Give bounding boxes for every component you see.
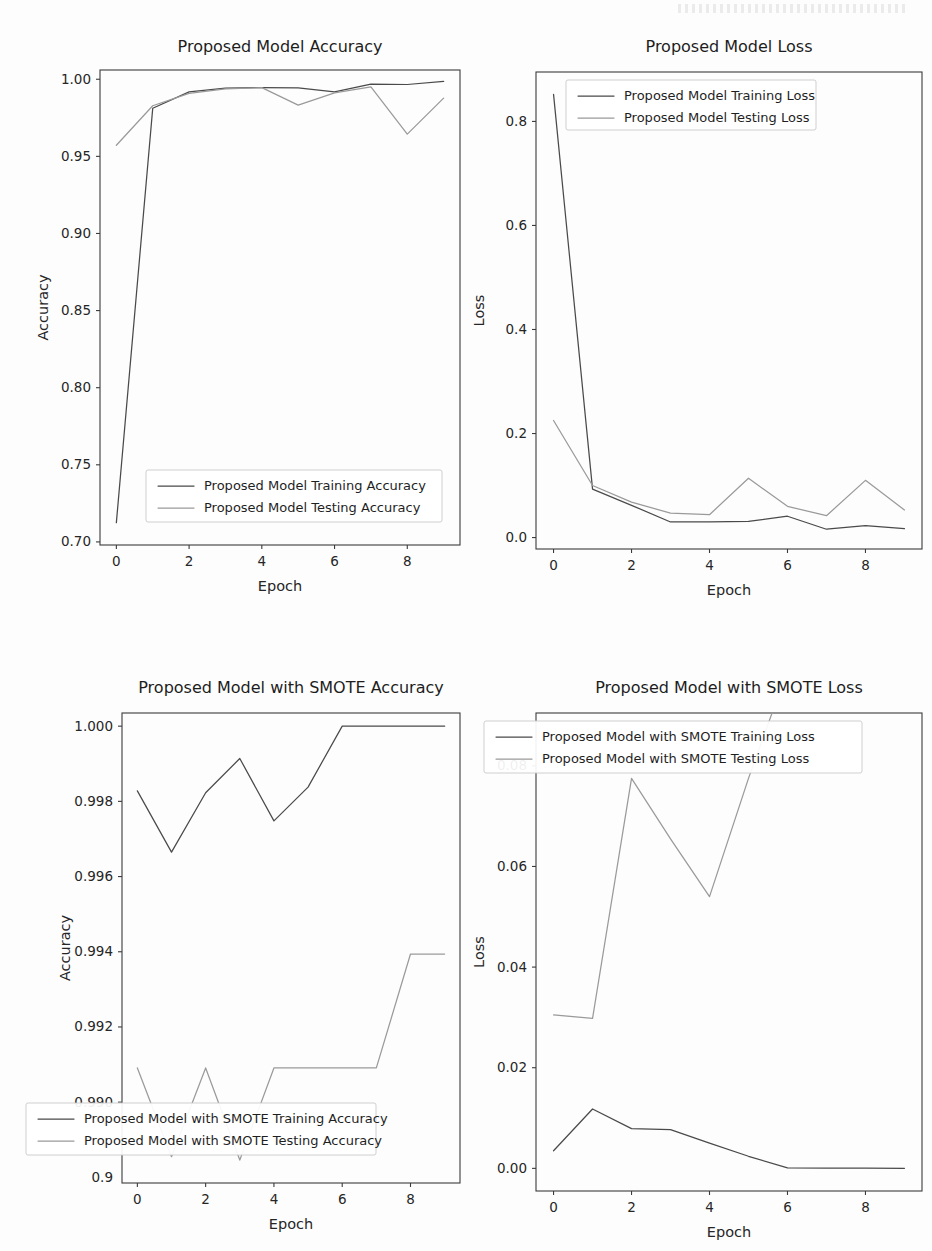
y-tick-label: 0.85: [61, 302, 91, 318]
y-tick-label: 1.00: [61, 71, 91, 87]
series-line-training: [554, 94, 905, 529]
x-tick-label: 8: [403, 553, 412, 569]
y-tick-label: 0.70: [61, 533, 91, 549]
x-tick-label: 8: [406, 1191, 415, 1207]
plot-frame: [536, 713, 922, 1191]
chart-title: Proposed Model with SMOTE Accuracy: [138, 678, 443, 697]
x-tick-label: 6: [783, 1199, 792, 1215]
x-tick-label: 2: [201, 1191, 210, 1207]
plot-area: [137, 726, 444, 1160]
series-line-training: [137, 726, 444, 852]
y-tick-label: 0.996: [74, 868, 113, 884]
x-tick-label: 8: [861, 557, 870, 573]
x-tick-label: 2: [185, 553, 194, 569]
legend-label-testing: Proposed Model Testing Accuracy: [204, 500, 421, 515]
chart-panel-proposed-model-smote-accuracy: Proposed Model with SMOTE Accuracy0.9900…: [8, 655, 468, 1245]
legend-label-testing: Proposed Model with SMOTE Testing Loss: [542, 751, 809, 766]
y-tick-label: 0.994: [74, 943, 113, 959]
legend-label-training: Proposed Model with SMOTE Training Loss: [542, 729, 815, 744]
scan-artifact: [678, 4, 908, 13]
x-tick-label: 2: [627, 1199, 636, 1215]
series-line-training: [116, 81, 443, 522]
chart-legend: Proposed Model with SMOTE Training LossP…: [484, 721, 862, 773]
plot-area: [116, 81, 443, 522]
x-tick-label: 4: [705, 1199, 714, 1215]
chart-svg-proposed-model-accuracy: Proposed Model Accuracy0.700.750.800.850…: [8, 30, 468, 605]
chart-panel-proposed-model-accuracy: Proposed Model Accuracy0.700.750.800.850…: [8, 30, 468, 605]
plot-frame: [536, 72, 922, 549]
x-tick-label: 2: [627, 557, 636, 573]
chart-panel-proposed-model-smote-loss: Proposed Model with SMOTE Loss0.000.020.…: [470, 655, 932, 1245]
y-axis-title: Loss: [471, 936, 487, 968]
y-tick-label: 0.0: [506, 529, 527, 545]
y-tick-label: 0.75: [61, 456, 91, 472]
y-tick-label: 0.95: [61, 148, 91, 164]
chart-legend: Proposed Model Training LossProposed Mod…: [566, 80, 816, 130]
series-line-testing: [116, 87, 443, 145]
y-tick-label: 0.80: [61, 379, 91, 395]
x-axis-title: Epoch: [707, 1224, 751, 1240]
legend-label-training: Proposed Model Training Accuracy: [204, 478, 426, 493]
legend-label-testing: Proposed Model Testing Loss: [624, 110, 810, 125]
plot-area: [554, 94, 905, 529]
series-line-training: [554, 1109, 905, 1168]
chart-legend: Proposed Model with SMOTE Training Accur…: [26, 1103, 388, 1155]
y-tick-label: 0.04: [497, 959, 527, 975]
y-tick-label: 0.90: [61, 225, 91, 241]
y-tick-label: 0.00: [497, 1160, 527, 1176]
x-tick-label: 0: [549, 1199, 558, 1215]
y-axis-title: Accuracy: [35, 274, 51, 341]
x-tick-label: 8: [861, 1199, 870, 1215]
y-tick-label: 0.06: [497, 858, 527, 874]
x-tick-label: 6: [338, 1191, 347, 1207]
series-line-testing: [554, 421, 905, 516]
chart-panel-proposed-model-loss: Proposed Model Loss0.00.20.40.60.802468E…: [470, 30, 932, 605]
y-axis-title: Loss: [471, 295, 487, 327]
x-tick-label: 0: [133, 1191, 142, 1207]
legend-label-testing: Proposed Model with SMOTE Testing Accura…: [84, 1133, 382, 1148]
legend-label-training: Proposed Model with SMOTE Training Accur…: [84, 1111, 388, 1126]
x-tick-label: 0: [549, 557, 558, 573]
y-tick-label: 0.6: [506, 217, 527, 233]
chart-title: Proposed Model Loss: [646, 37, 813, 56]
x-axis-title: Epoch: [258, 578, 302, 594]
chart-svg-proposed-model-loss: Proposed Model Loss0.00.20.40.60.802468E…: [470, 30, 932, 605]
x-tick-label: 0: [112, 553, 121, 569]
x-tick-label: 4: [270, 1191, 279, 1207]
x-tick-label: 4: [258, 553, 267, 569]
y-tick-label: 0.8: [506, 113, 527, 129]
chart-title: Proposed Model with SMOTE Loss: [595, 678, 863, 697]
legend-label-training: Proposed Model Training Loss: [624, 88, 815, 103]
y-tick-label: 0.2: [506, 425, 527, 441]
chart-svg-proposed-model-smote-accuracy: Proposed Model with SMOTE Accuracy0.9900…: [8, 655, 468, 1245]
x-tick-label: 6: [783, 557, 792, 573]
y-tick-label: 0.02: [497, 1059, 527, 1075]
y-tick-label: 0.998: [74, 793, 113, 809]
chart-svg-proposed-model-smote-loss: Proposed Model with SMOTE Loss0.000.020.…: [470, 655, 932, 1245]
y-tick-label: 0.4: [506, 321, 527, 337]
y-tick-label: 1.000: [74, 718, 113, 734]
chart-title: Proposed Model Accuracy: [178, 37, 383, 56]
x-tick-label: 6: [330, 553, 339, 569]
figure-page: Proposed Model Accuracy0.700.750.800.850…: [0, 0, 932, 1251]
x-axis-title: Epoch: [707, 582, 751, 598]
chart-legend: Proposed Model Training AccuracyProposed…: [146, 470, 442, 522]
x-axis-title: Epoch: [269, 1216, 313, 1232]
y-axis-title: Accuracy: [57, 914, 73, 981]
y-tick-label: 0.992: [74, 1018, 113, 1034]
x-tick-label: 4: [705, 557, 714, 573]
y-tick-label-truncated: 0.9: [92, 1169, 113, 1185]
